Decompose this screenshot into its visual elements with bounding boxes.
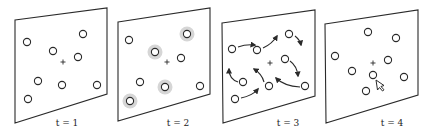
particle bbox=[151, 48, 158, 55]
particle bbox=[384, 56, 391, 63]
particle bbox=[125, 36, 132, 43]
panel-t4: t = 4 bbox=[325, 10, 418, 128]
time-step-label: t = 4 bbox=[381, 118, 404, 128]
particle bbox=[265, 82, 272, 89]
particle bbox=[369, 71, 376, 78]
time-step-label: t = 3 bbox=[277, 118, 300, 128]
particle bbox=[331, 52, 338, 59]
particle bbox=[161, 83, 168, 90]
particle bbox=[301, 82, 308, 89]
particle bbox=[239, 78, 246, 85]
particle bbox=[348, 67, 355, 74]
particle bbox=[34, 77, 41, 84]
time-step-diagram: t = 1t = 2t = 3t = 4 bbox=[0, 0, 435, 136]
particle bbox=[126, 97, 133, 104]
plane-frame bbox=[222, 10, 315, 123]
panel-t2: t = 2 bbox=[118, 8, 210, 128]
particle bbox=[79, 30, 86, 37]
particle bbox=[228, 45, 235, 52]
time-step-label: t = 1 bbox=[56, 118, 79, 128]
particle bbox=[253, 46, 260, 53]
particle bbox=[196, 82, 203, 89]
particle bbox=[285, 30, 292, 37]
panel-t3: t = 3 bbox=[222, 10, 315, 128]
plane-frame bbox=[325, 10, 418, 123]
particle bbox=[24, 95, 31, 102]
particle bbox=[58, 81, 65, 88]
particle bbox=[23, 38, 30, 45]
particle bbox=[177, 54, 184, 61]
particle bbox=[136, 78, 143, 85]
particle bbox=[281, 55, 288, 62]
panel-t1: t = 1 bbox=[15, 8, 107, 128]
plane-frame bbox=[15, 8, 107, 123]
particle bbox=[362, 87, 369, 94]
particle bbox=[231, 95, 238, 102]
particle bbox=[74, 53, 81, 60]
particle bbox=[49, 47, 56, 54]
particle bbox=[400, 73, 407, 80]
particle bbox=[364, 28, 371, 35]
time-step-label: t = 2 bbox=[167, 118, 190, 128]
particle bbox=[93, 81, 100, 88]
particle bbox=[183, 30, 190, 37]
particle bbox=[392, 34, 399, 41]
